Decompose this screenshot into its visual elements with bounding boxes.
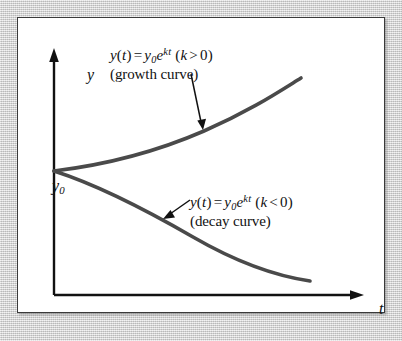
growth-curve — [54, 78, 301, 171]
growth-equation: y(t)=y0ekt (k>0) — [110, 47, 213, 63]
decay-curve-annotation: y(t)=y0ekt (k<0) (decay curve) — [190, 193, 293, 230]
decay-equals: = — [212, 194, 225, 210]
decay-cond-val: 0 — [280, 194, 288, 210]
decay-lhs-fn: y — [190, 194, 197, 210]
growth-lhs-fn: y — [110, 47, 117, 63]
growth-equals: = — [132, 47, 145, 63]
decay-leader-arrow — [163, 200, 190, 219]
decay-cond-op: < — [267, 194, 280, 210]
growth-cond-val: 0 — [200, 47, 208, 63]
decay-curve-caption: (decay curve) — [190, 213, 293, 229]
growth-cond-op: > — [187, 47, 200, 63]
y0-intercept-label: y0 — [52, 177, 65, 197]
growth-cond-close: ) — [208, 47, 213, 63]
y-axis-label: y — [87, 66, 94, 83]
t-axis-label: t — [379, 300, 383, 317]
figure-panel: y t y0 y(t)=y0ekt (k>0) (growth curve) y… — [17, 17, 385, 313]
y0-subscript: 0 — [59, 184, 64, 196]
growth-curve-annotation: y(t)=y0ekt (k>0) (growth curve) — [110, 46, 213, 83]
decay-equation: y(t)=y0ekt (k<0) — [190, 194, 293, 210]
growth-curve-caption: (growth curve) — [110, 66, 213, 82]
decay-cond-close: ) — [288, 194, 293, 210]
t-axis — [54, 290, 364, 300]
